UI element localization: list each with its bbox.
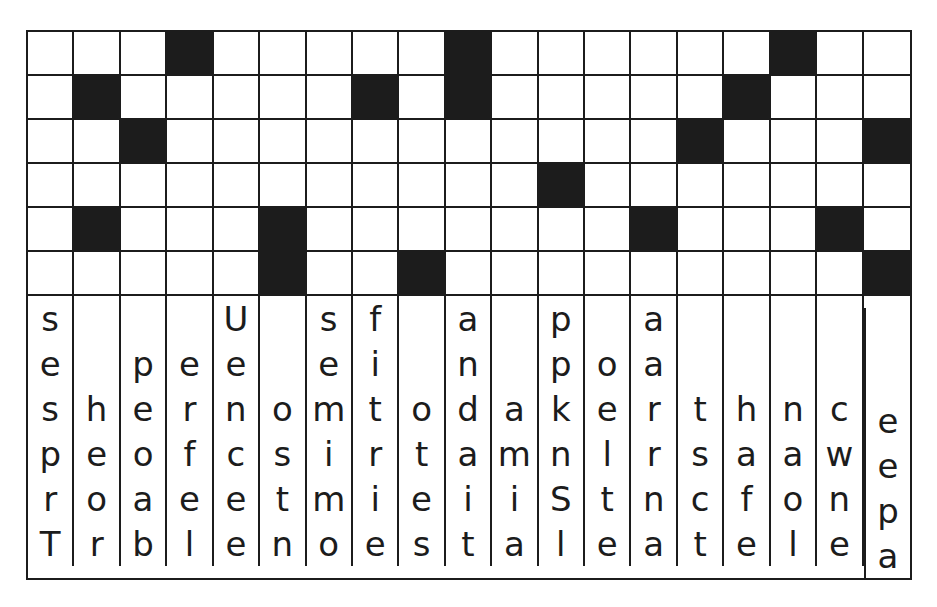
letter-cell[interactable]: n [446,341,490,386]
letter-cell[interactable]: l [771,521,815,566]
open-cell[interactable] [864,208,910,252]
open-cell[interactable] [678,252,724,296]
letter-cell[interactable]: e [167,341,211,386]
letter-cell[interactable]: S [539,476,583,521]
open-cell[interactable] [399,32,445,76]
letter-cell[interactable]: n [631,476,675,521]
letter-cell[interactable]: p [539,296,583,341]
letter-cell[interactable]: e [353,521,397,566]
letter-cell[interactable]: r [631,431,675,476]
open-cell[interactable] [214,76,260,120]
letter-cell[interactable]: e [214,341,258,386]
letter-cell[interactable]: o [585,341,629,386]
letter-cell[interactable]: e [724,521,768,566]
open-cell[interactable] [585,208,631,252]
open-cell[interactable] [167,120,213,164]
letter-cell[interactable]: m [307,476,351,521]
letter-cell[interactable]: n [817,476,861,521]
open-cell[interactable] [446,208,492,252]
letter-cell[interactable]: s [678,431,722,476]
letter-cell[interactable]: b [121,521,165,566]
open-cell[interactable] [539,32,585,76]
open-cell[interactable] [492,208,538,252]
letter-cell[interactable]: e [817,521,861,566]
open-cell[interactable] [121,252,167,296]
letter-cell[interactable]: c [678,476,722,521]
open-cell[interactable] [585,252,631,296]
open-cell[interactable] [539,76,585,120]
open-cell[interactable] [260,32,306,76]
letter-cell[interactable]: i [307,431,351,476]
letter-cell[interactable]: r [353,431,397,476]
open-cell[interactable] [771,252,817,296]
open-cell[interactable] [539,120,585,164]
open-cell[interactable] [771,208,817,252]
open-cell[interactable] [167,76,213,120]
empty-letter-cell[interactable] [866,308,910,353]
open-cell[interactable] [28,76,74,120]
open-cell[interactable] [724,164,770,208]
letter-cell[interactable]: h [724,386,768,431]
open-cell[interactable] [121,208,167,252]
open-cell[interactable] [817,164,863,208]
open-cell[interactable] [167,208,213,252]
empty-letter-cell[interactable] [771,296,815,341]
letter-cell[interactable]: s [28,386,72,431]
empty-letter-cell[interactable] [74,341,118,386]
letter-cell[interactable]: a [121,476,165,521]
open-cell[interactable] [353,32,399,76]
letter-cell[interactable]: s [260,431,304,476]
empty-letter-cell[interactable] [724,341,768,386]
open-cell[interactable] [74,164,120,208]
open-cell[interactable] [260,164,306,208]
empty-letter-cell[interactable] [866,353,910,398]
letter-cell[interactable]: s [28,296,72,341]
open-cell[interactable] [28,208,74,252]
open-cell[interactable] [307,120,353,164]
open-cell[interactable] [539,208,585,252]
letter-cell[interactable]: i [446,476,490,521]
open-cell[interactable] [121,76,167,120]
open-cell[interactable] [678,32,724,76]
open-cell[interactable] [678,208,724,252]
letter-cell[interactable]: a [631,341,675,386]
letter-cell[interactable]: n [539,431,583,476]
letter-cell[interactable]: a [446,296,490,341]
open-cell[interactable] [353,208,399,252]
letter-cell[interactable]: h [74,386,118,431]
letter-cell[interactable]: p [121,341,165,386]
empty-letter-cell[interactable] [771,341,815,386]
open-cell[interactable] [307,76,353,120]
letter-cell[interactable]: t [399,431,443,476]
letter-cell[interactable]: o [771,476,815,521]
letter-cell[interactable]: e [585,386,629,431]
letter-cell[interactable]: c [817,386,861,431]
letter-cell[interactable]: w [817,431,861,476]
open-cell[interactable] [74,120,120,164]
open-cell[interactable] [399,76,445,120]
empty-letter-cell[interactable] [167,296,211,341]
open-cell[interactable] [585,120,631,164]
empty-letter-cell[interactable] [121,296,165,341]
letter-cell[interactable]: e [307,341,351,386]
letter-cell[interactable]: e [399,476,443,521]
letter-cell[interactable]: o [307,521,351,566]
open-cell[interactable] [28,252,74,296]
open-cell[interactable] [585,164,631,208]
letter-cell[interactable]: i [353,341,397,386]
letter-cell[interactable]: a [492,386,536,431]
letter-cell[interactable]: f [724,476,768,521]
open-cell[interactable] [28,32,74,76]
open-cell[interactable] [214,120,260,164]
empty-letter-cell[interactable] [492,341,536,386]
letter-cell[interactable]: e [585,521,629,566]
letter-cell[interactable]: a [771,431,815,476]
letter-cell[interactable]: d [446,386,490,431]
open-cell[interactable] [631,164,677,208]
letter-cell[interactable]: n [214,386,258,431]
open-cell[interactable] [678,76,724,120]
letter-cell[interactable]: a [724,431,768,476]
open-cell[interactable] [214,164,260,208]
letter-cell[interactable]: s [307,296,351,341]
letter-cell[interactable]: o [121,431,165,476]
